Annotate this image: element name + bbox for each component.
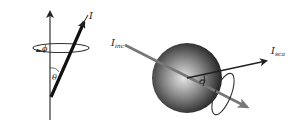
- diagram-canvas: I ϕ θ Iinc Isca Θ: [0, 0, 300, 124]
- intensity-vector-tip: [84, 15, 88, 22]
- scattered-label: Isca: [270, 45, 285, 57]
- diagram-svg: I ϕ θ Iinc Isca Θ: [0, 0, 300, 124]
- scattering-angle-label: Θ: [199, 77, 206, 86]
- scattering-diagram: Iinc Isca Θ: [110, 37, 285, 117]
- polar-angle-arc: [50, 68, 59, 72]
- polarization-diagram: I ϕ θ: [33, 10, 94, 120]
- vector-label: I: [88, 10, 94, 21]
- incident-label: Iinc: [110, 37, 125, 49]
- intensity-vector: [51, 22, 84, 97]
- azimuth-label: ϕ: [42, 44, 48, 53]
- polar-angle-label: θ: [52, 73, 57, 82]
